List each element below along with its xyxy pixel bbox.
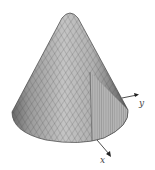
x-axis-label: x: [100, 155, 105, 165]
y-axis-label: y: [138, 98, 145, 108]
y-axis-arrow-icon: [134, 93, 139, 97]
cone-surface: [0, 0, 155, 170]
cone-surface-figure: y x: [0, 0, 155, 170]
x-axis: x: [97, 140, 111, 165]
